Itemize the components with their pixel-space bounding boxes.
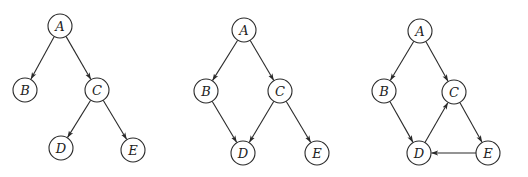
node-label: E <box>482 146 493 161</box>
node-e: E <box>121 138 145 162</box>
node-label: B <box>378 84 389 99</box>
node-a: A <box>408 19 432 43</box>
node-e: E <box>305 141 329 165</box>
node-label: A <box>414 24 424 39</box>
node-label: D <box>55 141 67 156</box>
edge-a-to-c <box>250 40 274 80</box>
node-label: E <box>311 146 322 161</box>
node-e: E <box>476 141 500 165</box>
node-label: B <box>19 83 30 98</box>
node-c: C <box>268 79 292 103</box>
edge-a-to-b <box>31 37 54 80</box>
node-b: B <box>372 79 396 103</box>
node-b: B <box>194 79 218 103</box>
node-d: D <box>49 136 73 160</box>
node-b: B <box>13 78 37 102</box>
node-label: B <box>200 84 211 99</box>
edge-b-to-d <box>212 101 236 142</box>
edge-a-to-c <box>426 41 448 81</box>
edge-a-to-b <box>390 41 413 80</box>
node-label: C <box>92 83 102 98</box>
node-d: D <box>407 141 431 165</box>
node-d: D <box>231 141 255 165</box>
graph-tree: ABCDE <box>13 14 145 162</box>
edge-b-to-d <box>390 101 413 142</box>
node-a: A <box>232 18 256 42</box>
edge-a-to-c <box>66 36 91 79</box>
node-c: C <box>85 78 109 102</box>
edge-c-to-d <box>249 101 273 142</box>
node-label: A <box>54 19 64 34</box>
node-c: C <box>442 80 466 104</box>
graph-dag: ABCDE <box>194 18 329 165</box>
edge-c-to-d <box>68 100 91 137</box>
node-label: A <box>238 23 248 38</box>
node-label: E <box>127 143 138 158</box>
node-label: C <box>449 85 459 100</box>
edge-d-to-c <box>425 103 448 143</box>
edge-c-to-e <box>460 102 482 142</box>
edge-a-to-b <box>213 40 238 80</box>
node-label: D <box>237 146 249 161</box>
edge-c-to-e <box>286 101 310 142</box>
node-label: C <box>275 84 285 99</box>
diagram-canvas: ABCDE ABCDE ABCDE <box>0 0 528 177</box>
edge-c-to-e <box>103 100 126 139</box>
node-label: D <box>413 146 425 161</box>
node-a: A <box>48 14 72 38</box>
graph-cyclic: ABCDE <box>372 19 500 165</box>
